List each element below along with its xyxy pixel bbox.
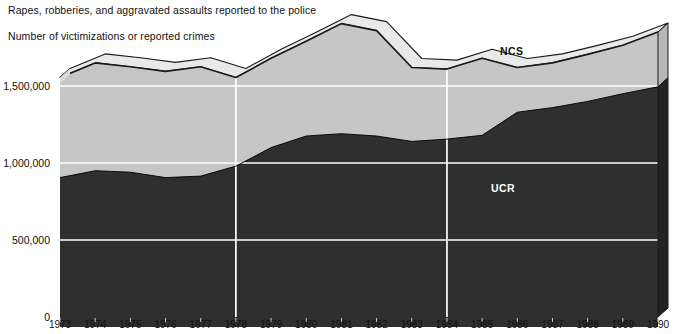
x-axis-tick-1976: 1976 xyxy=(146,319,186,330)
y-axis-tick-1000000: 1,000,000 xyxy=(0,157,50,169)
x-axis-tick-1981: 1981 xyxy=(321,319,361,330)
x-axis-tick-1978: 1978 xyxy=(216,319,256,330)
x-axis-tick-1980: 1980 xyxy=(286,319,326,330)
x-axis-tick-1975: 1975 xyxy=(110,319,150,330)
y-axis-tick-1500000: 1,500,000 xyxy=(0,80,50,92)
x-axis-tick-1983: 1983 xyxy=(392,319,432,330)
x-axis-tick-1984: 1984 xyxy=(427,319,467,330)
series-label-ncs: NCS xyxy=(500,45,523,57)
x-axis-tick-1979: 1979 xyxy=(251,319,291,330)
x-axis-tick-1973: 1973 xyxy=(40,319,80,330)
chart-plot-area xyxy=(0,0,684,334)
y-axis-tick-500000: 500,000 xyxy=(0,234,50,246)
x-axis-tick-1974: 1974 xyxy=(75,319,115,330)
x-axis-tick-1986: 1986 xyxy=(497,319,537,330)
x-axis-tick-1982: 1982 xyxy=(357,319,397,330)
x-axis-tick-1987: 1987 xyxy=(532,319,572,330)
x-axis-tick-1985: 1985 xyxy=(462,319,502,330)
x-axis-tick-1977: 1977 xyxy=(181,319,221,330)
x-axis-tick-1989: 1989 xyxy=(603,319,643,330)
x-axis-tick-1990: 1990 xyxy=(638,319,678,330)
x-axis-tick-1988: 1988 xyxy=(568,319,608,330)
series-label-ucr: UCR xyxy=(491,182,515,194)
chart-container: Rapes, robberies, and aggravated assault… xyxy=(0,0,684,334)
